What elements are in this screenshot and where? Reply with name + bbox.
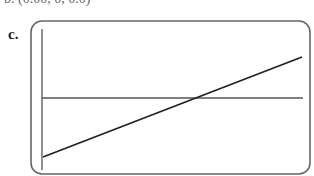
increasing-line [43,57,302,157]
calculator-graph [0,0,314,176]
